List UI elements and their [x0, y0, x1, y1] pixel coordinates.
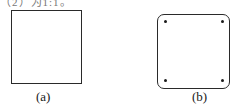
corner-dot-bottom-left — [164, 79, 167, 82]
corner-dot-top-left — [164, 20, 167, 23]
figure-a-label: (a) — [36, 89, 50, 105]
cropped-header-text: （2）为1:1。 — [0, 0, 72, 9]
figure-b-label: (b) — [192, 89, 207, 105]
figure-a-square — [11, 10, 82, 84]
corner-dot-top-right — [221, 20, 224, 23]
figure-b-rounded-square — [157, 14, 230, 89]
corner-dot-bottom-right — [221, 79, 224, 82]
